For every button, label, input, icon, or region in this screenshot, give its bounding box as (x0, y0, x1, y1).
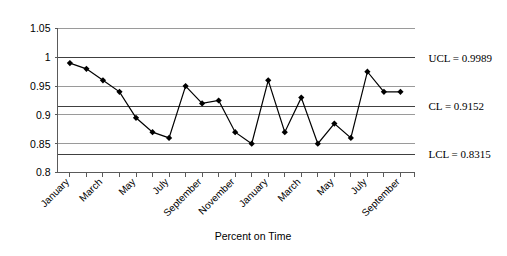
data-point-marker (298, 95, 304, 101)
x-axis-ticks (70, 173, 415, 177)
y-tick-label: 0.85 (30, 138, 51, 150)
data-point-marker (282, 129, 288, 135)
data-point-marker (265, 77, 271, 83)
y-tick-label: 1.05 (30, 22, 51, 34)
control-limit-labels: UCL = 0.9989CL = 0.9152LCL = 0.8315 (429, 52, 493, 160)
y-axis-tick-labels: 1.0510.950.90.850.8 (30, 22, 57, 178)
data-series-group (67, 60, 404, 147)
data-point-marker (397, 89, 403, 95)
control-limit-label-cl: CL = 0.9152 (429, 100, 485, 112)
data-point-marker (67, 60, 73, 66)
data-point-marker (216, 97, 222, 103)
gridlines-group (58, 29, 415, 173)
control-chart: 1.0510.950.90.850.8 JanuaryMarchMayJulyS… (0, 0, 507, 256)
x-tick-label: May (116, 176, 137, 197)
x-tick-label: March (275, 176, 302, 203)
x-tick-label: March (77, 176, 104, 203)
axes-group (58, 29, 415, 173)
y-tick-label: 0.8 (36, 166, 51, 178)
y-tick-label: 0.95 (30, 80, 51, 92)
x-tick-label: November (196, 176, 237, 217)
chart-canvas: 1.0510.950.90.850.8 JanuaryMarchMayJulyS… (0, 0, 507, 256)
x-axis-tick-labels: JanuaryMarchMayJulySeptemberNovemberJanu… (38, 176, 402, 219)
y-tick-label: 0.9 (36, 109, 51, 121)
control-limit-label-lcl: LCL = 0.8315 (429, 148, 492, 160)
x-tick-label: July (348, 176, 368, 196)
y-tick-label: 1 (45, 51, 51, 63)
control-limit-lines-group (58, 58, 415, 154)
x-axis-title: Percent on Time (215, 230, 292, 242)
x-tick-label: January (237, 176, 270, 209)
x-tick-label: May (315, 176, 336, 197)
control-limit-label-ucl: UCL = 0.9989 (429, 52, 493, 64)
x-tick-label: July (150, 176, 170, 196)
data-point-marker (166, 135, 172, 141)
x-tick-label: January (38, 176, 71, 209)
